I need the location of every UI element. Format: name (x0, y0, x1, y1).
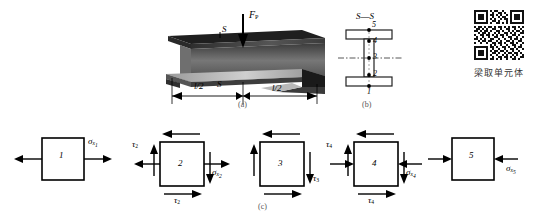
element-2-number: 2 (178, 158, 183, 168)
element-3-shear-left-head (250, 144, 258, 154)
dimension-label-right: l/2 (272, 84, 282, 93)
section-marker-bottom: S (217, 80, 222, 89)
section-marker-top: S (222, 25, 227, 34)
section-point-4-marker (367, 39, 371, 43)
section-point-label-2: 2 (373, 70, 377, 78)
qr-code-icon[interactable] (474, 10, 524, 60)
element-2-tau-label-left: τ2 (132, 140, 138, 150)
element-1-drawing (14, 130, 126, 190)
section-point-2-marker (367, 73, 371, 77)
section-point-label-5: 5 (372, 21, 376, 29)
element-4-tau-label-bottom: τ4 (368, 196, 374, 206)
element-3-number: 3 (278, 158, 283, 168)
qr-caption: 梁取单元体 (468, 66, 530, 79)
element-4-shear-top-head (356, 130, 366, 138)
section-point-5-marker (367, 28, 371, 32)
element-4-number: 4 (372, 158, 377, 168)
figure-root: FP S l/2 S l/2 (a) (0, 0, 540, 222)
element-2-drawing (124, 120, 244, 212)
load-label-sub: P (255, 13, 258, 20)
element-4-shear-bottom-head (386, 190, 396, 198)
section-point-3-marker (367, 56, 371, 60)
element-4-shear-left-head (344, 144, 352, 154)
panel-a-beam: FP S l/2 S l/2 (a) (150, 4, 335, 112)
panel-label-b: (b) (362, 100, 371, 109)
element-4-tau-label-left: τ4 (326, 140, 332, 150)
stress-element-2: 2 τ2 τ2 σx2 (124, 120, 244, 212)
element-2-sigma-label: σx2 (212, 168, 222, 179)
element-5-arrow-right-head (494, 155, 503, 163)
element-2-tau-label-bottom: τ2 (174, 196, 180, 206)
element-2-normal-right-head (221, 160, 230, 168)
element-1-arrow-right-head (103, 155, 112, 163)
dimension-arrow-mid-right (243, 92, 250, 100)
section-point-label-3: 3 (373, 53, 377, 61)
panel-label-c: (c) (258, 202, 267, 211)
element-5-number: 5 (469, 150, 474, 160)
element-5-drawing (424, 130, 540, 190)
element-4-sigma-label: σx4 (406, 168, 416, 179)
section-point-label-4: 4 (373, 37, 377, 45)
element-2-shear-top-head (162, 130, 172, 138)
element-4-drawing (318, 120, 438, 212)
panel-c-stress-elements: 1 σx1 (0, 112, 540, 222)
panel-b-cross-section: S—S 5 4 3 2 1 (b) (336, 8, 416, 112)
load-label: FP (249, 10, 259, 21)
section-point-label-1: 1 (367, 88, 371, 96)
qr-block[interactable]: 梁取单元体 (468, 10, 530, 88)
panel-label-a: (a) (238, 100, 247, 109)
element-1-sigma-label: σx1 (88, 137, 98, 148)
element-5-arrow-left-head (443, 155, 452, 163)
element-2-normal-left-head (134, 160, 143, 168)
element-5-sigma-label: σx5 (506, 164, 516, 175)
stress-element-4: 4 τ4 τ4 σx4 (318, 120, 438, 212)
element-2-shear-left-head (150, 144, 158, 154)
element-3-shear-top-head (262, 130, 272, 138)
dimension-label-left: l/2 (194, 82, 204, 91)
element-3-shear-bottom-head (292, 190, 302, 198)
stress-element-1: 1 σx1 (14, 130, 126, 190)
element-1-arrow-left-head (14, 155, 23, 163)
stress-element-5: 5 σx5 (424, 130, 540, 190)
element-4-normal-left-head (345, 160, 354, 168)
element-2-shear-bottom-head (192, 190, 202, 198)
dimension-arrow-left (172, 92, 182, 100)
element-1-number: 1 (59, 150, 64, 160)
dimension-arrow-mid-left (236, 92, 243, 100)
beam-perspective-drawing (150, 4, 335, 112)
